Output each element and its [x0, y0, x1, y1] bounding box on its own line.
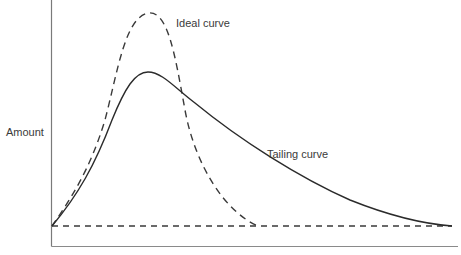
ideal-curve-annotation: Ideal curve — [176, 18, 230, 29]
tailing-curve-line — [52, 72, 452, 226]
ideal-curve-line — [52, 13, 258, 226]
y-axis-label: Amount — [6, 127, 44, 138]
chart-canvas — [0, 0, 461, 255]
tailing-curve-annotation: Tailing curve — [267, 149, 328, 160]
